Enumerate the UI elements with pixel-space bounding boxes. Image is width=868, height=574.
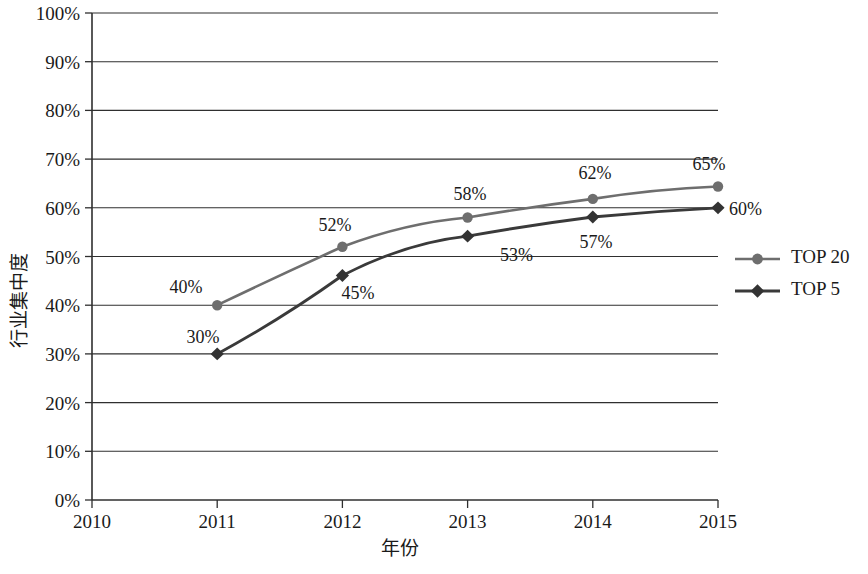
point-label-top20: 52%	[319, 215, 352, 235]
x-tick-label: 2010	[73, 511, 111, 532]
y-tick-label: 20%	[45, 393, 80, 414]
y-tick-label: 30%	[45, 344, 80, 365]
y-tick-label: 60%	[45, 198, 80, 219]
data-point-top20	[588, 194, 598, 204]
footer-caption	[0, 563, 868, 574]
data-point-top20	[212, 300, 222, 310]
chart-canvas: 100% 90% 80% 70% 60% 50% 40% 30% 20% 10%…	[0, 0, 868, 574]
x-tick-labels: 2010 2011 2012 2013 2014 2015	[73, 511, 737, 532]
series-line-top20	[217, 187, 718, 306]
point-label-top20: 62%	[579, 163, 612, 183]
y-tick-label: 90%	[45, 52, 80, 73]
data-point-top5	[211, 348, 224, 361]
y-tick-label: 40%	[45, 295, 80, 316]
data-point-top5	[461, 230, 474, 243]
y-tick-label: 80%	[45, 100, 80, 121]
data-point-top20	[462, 212, 472, 222]
data-point-top5	[711, 201, 724, 214]
point-label-top5: 45%	[342, 283, 375, 303]
point-label-top20: 65%	[693, 154, 726, 174]
point-label-top20: 58%	[454, 184, 487, 204]
series-line-top5	[217, 208, 718, 354]
y-tick-label: 50%	[45, 247, 80, 268]
x-tick-marks	[92, 500, 718, 508]
x-tick-label: 2015	[699, 511, 737, 532]
diamond-marker-icon	[751, 284, 765, 298]
point-label-top20: 40%	[170, 277, 203, 297]
point-labels-top5: 30% 45% 53% 57% 60%	[187, 199, 763, 347]
y-tick-label: 10%	[45, 441, 80, 462]
data-point-top20	[713, 181, 723, 191]
point-label-top5: 53%	[500, 245, 533, 265]
point-label-top5: 30%	[187, 327, 220, 347]
data-point-top5	[586, 211, 599, 224]
x-tick-label: 2014	[574, 511, 613, 532]
y-tick-label: 70%	[45, 149, 80, 170]
gridlines	[92, 13, 718, 451]
data-point-top20	[337, 242, 347, 252]
legend-label-top20: TOP 20	[791, 246, 850, 267]
legend-label-top5: TOP 5	[791, 278, 840, 299]
circle-marker-icon	[752, 254, 763, 265]
legend-item-top20[interactable]: TOP 20	[735, 246, 850, 267]
series-top5	[211, 201, 725, 360]
point-labels-top20: 40% 52% 58% 62% 65%	[170, 154, 726, 297]
x-tick-label: 2011	[199, 511, 236, 532]
y-tick-labels: 100% 90% 80% 70% 60% 50% 40% 30% 20% 10%…	[36, 3, 81, 511]
chart-legend: TOP 20 TOP 5	[735, 246, 850, 299]
y-tick-label: 100%	[36, 3, 81, 24]
y-tick-label: 0%	[55, 490, 81, 511]
x-axis-title: 年份	[381, 538, 419, 559]
x-tick-label: 2012	[323, 511, 361, 532]
point-label-top5: 60%	[729, 199, 762, 219]
legend-item-top5[interactable]: TOP 5	[735, 278, 840, 299]
point-label-top5: 57%	[580, 232, 613, 252]
x-tick-label: 2013	[449, 511, 487, 532]
line-chart: 100% 90% 80% 70% 60% 50% 40% 30% 20% 10%…	[0, 0, 868, 574]
y-tick-marks	[85, 13, 92, 500]
y-axis-title: 行业集中度	[9, 253, 30, 348]
